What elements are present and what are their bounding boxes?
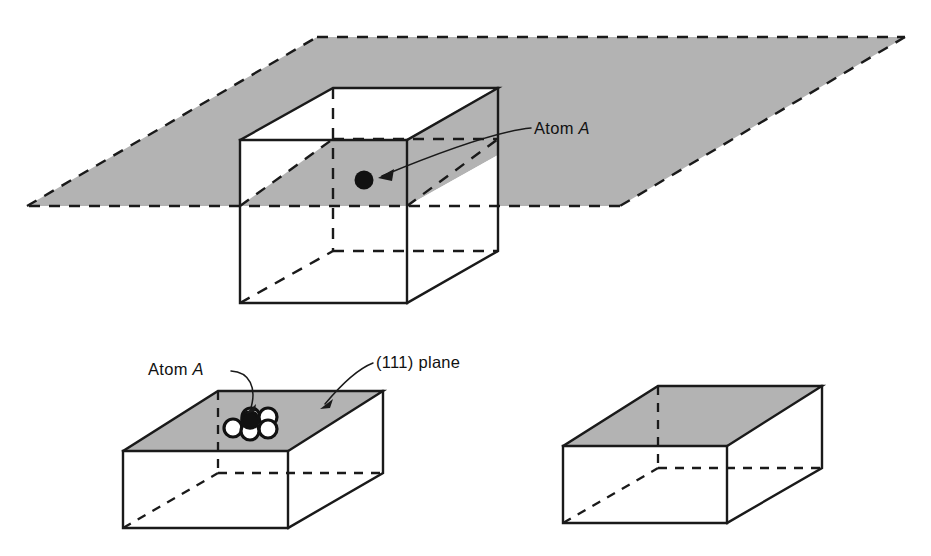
top-panel: Atom A xyxy=(27,37,905,305)
diagram-canvas: Atom A xyxy=(0,0,931,556)
atom-a-marker-top xyxy=(355,171,374,190)
bottom-right-panel xyxy=(563,386,822,523)
atom-circle-right xyxy=(259,420,277,438)
figure-root: Atom A xyxy=(0,0,931,556)
atom-a-center-bl xyxy=(242,412,259,429)
atom-a-label-bl: Atom A xyxy=(148,360,204,378)
atom-circle-left xyxy=(224,419,242,437)
atom-a-label-top: Atom A xyxy=(534,119,590,137)
box-front-face-br xyxy=(563,446,727,523)
plane-111-label: (111) plane xyxy=(376,353,460,371)
box-front-face-bl xyxy=(123,451,288,528)
bottom-left-panel: Atom A (111) plane xyxy=(123,353,460,528)
